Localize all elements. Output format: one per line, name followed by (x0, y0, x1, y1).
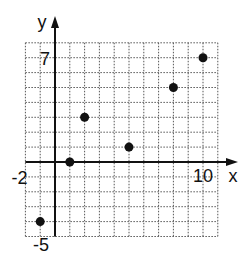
data-point (36, 217, 45, 226)
x-tick-label: -2 (11, 168, 27, 188)
x-axis-label: x (229, 166, 238, 186)
x-tick-label: 10 (193, 166, 213, 186)
axes (25, 16, 238, 237)
x-axis-arrow-icon (226, 158, 238, 166)
data-point (169, 83, 178, 92)
y-tick-label: -5 (33, 235, 49, 255)
axis-labels: yx-2107-5 (11, 12, 237, 255)
data-points (36, 53, 208, 226)
data-point (199, 53, 208, 62)
y-axis-arrow-icon (51, 16, 59, 28)
y-axis-label: y (38, 12, 47, 32)
data-point (125, 143, 134, 152)
data-point (65, 158, 74, 167)
scatter-plot: yx-2107-5 (0, 0, 249, 269)
y-tick-label: 7 (40, 49, 50, 69)
data-point (80, 113, 89, 122)
